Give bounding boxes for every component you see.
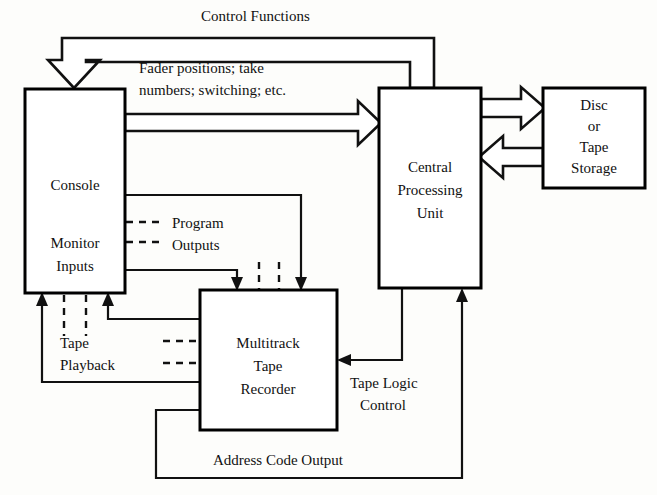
label-address-code-output: Address Code Output xyxy=(213,452,344,468)
edge-program-outputs-dashed-verticals xyxy=(259,262,279,289)
node-storage-label-3: Tape xyxy=(580,139,609,155)
diagram-page: Console Monitor Inputs Central Processin… xyxy=(0,0,657,495)
node-multitrack-label-3: Recorder xyxy=(241,381,296,397)
node-console-label: Console xyxy=(50,177,100,193)
edge-program-outputs-dashed xyxy=(126,222,163,242)
node-console-sublabel-2: Inputs xyxy=(56,258,94,274)
node-multitrack-label-2: Tape xyxy=(254,358,283,374)
node-cpu-label-1: Central xyxy=(408,159,452,175)
label-tape-playback-line-2: Playback xyxy=(60,357,115,373)
edge-tape-playback-dashed xyxy=(163,341,201,363)
node-cpu-label-2: Processing xyxy=(398,182,463,198)
edge-fader-positions xyxy=(125,101,381,145)
block-diagram-canvas: Console Monitor Inputs Central Processin… xyxy=(0,0,657,495)
label-fader-positions-line-2: numbers; switching; etc. xyxy=(139,82,286,98)
label-tape-logic-control-line-1: Tape Logic xyxy=(350,375,418,391)
edge-console-bottom-dashed xyxy=(64,295,86,336)
label-tape-logic-control-line-2: Control xyxy=(360,397,406,413)
edge-cpu-to-storage xyxy=(481,87,545,129)
node-multitrack-label-1: Multitrack xyxy=(236,335,300,351)
label-program-outputs-line-2: Outputs xyxy=(172,237,220,253)
node-cpu-label-3: Unit xyxy=(417,205,445,221)
edge-tape-logic-control xyxy=(337,288,402,366)
edge-storage-to-cpu xyxy=(479,136,543,178)
label-fader-positions-line-1: Fader positions; take xyxy=(139,60,264,76)
label-control-functions: Control Functions xyxy=(201,8,310,24)
node-storage-label-1: Disc xyxy=(580,97,608,113)
label-program-outputs-line-1: Program xyxy=(172,215,224,231)
label-tape-playback-line-1: Tape xyxy=(60,335,89,351)
node-console-sublabel-1: Monitor xyxy=(50,235,99,251)
node-storage-label-4: Storage xyxy=(571,160,617,176)
node-storage-label-2: or xyxy=(588,118,601,134)
edge-tape-playback-return-upper xyxy=(102,292,200,319)
edge-monitor-to-multitrack xyxy=(125,270,243,291)
